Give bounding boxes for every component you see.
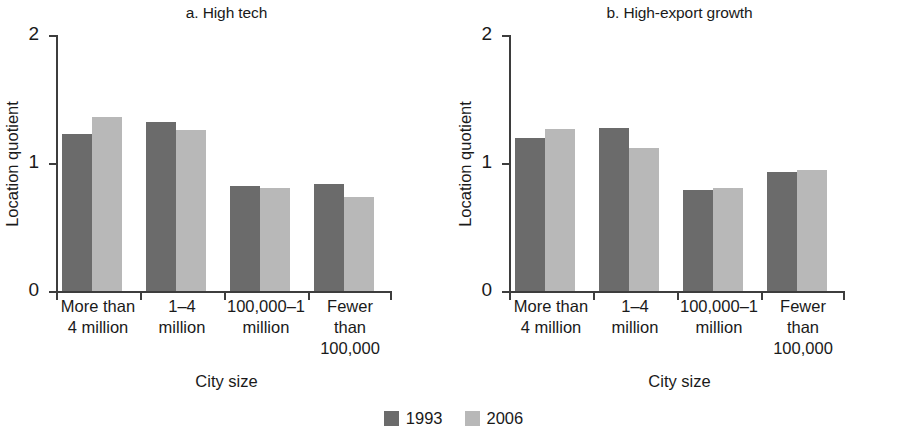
panel-a-x-label-1: 1–4 million (140, 296, 224, 338)
panel-a-x-label-0-line-1: 4 million (56, 317, 140, 338)
panel-b-group-2 (677, 35, 761, 291)
panel-a-bar-2006-1 (176, 130, 206, 291)
panel-a-title: a. High tech (0, 4, 453, 22)
panel-b-x-label-0: More than 4 million (509, 296, 593, 338)
panel-a-group-2 (224, 35, 308, 291)
legend-item-1993: 1993 (384, 410, 443, 427)
panel-a-x-label-3-line-2: 100,000 (308, 338, 392, 359)
panel-b-x-label-1-line-1: million (593, 317, 677, 338)
legend-item-2006: 2006 (465, 410, 524, 427)
panel-a-plot-area: 2 1 0 Location quotient (56, 35, 392, 293)
panel-b-x-label-2-line-0: 100,000–1 (677, 296, 761, 317)
panel-b-x-label-1: 1–4 million (593, 296, 677, 338)
legend-label-1993: 1993 (406, 410, 443, 427)
panel-a-x-label-1-line-1: million (140, 317, 224, 338)
panel-a-x-label-3: Fewer than 100,000 (308, 296, 392, 359)
panel-a-bar-2006-3 (344, 197, 374, 292)
panel-b-bar-1993-0 (515, 138, 545, 292)
panel-b-x-label-3: Fewer than 100,000 (761, 296, 845, 359)
panel-a-x-label-2-line-1: million (224, 317, 308, 338)
panel-a-x-label-2-line-0: 100,000–1 (224, 296, 308, 317)
legend-label-2006: 2006 (487, 410, 524, 427)
panel-a-x-label-2: 100,000–1 million (224, 296, 308, 338)
panel-b-y-tick-label-2: 2 (481, 23, 492, 45)
panel-b-title: b. High-export growth (453, 4, 906, 22)
panel-b-x-label-1-line-0: 1–4 (593, 296, 677, 317)
panel-b-x-label-3-line-1: than (761, 317, 845, 338)
panel-a-bar-1993-2 (230, 186, 260, 291)
panel-b-group-3 (761, 35, 845, 291)
panel-a-y-tick-label-1: 1 (28, 151, 39, 173)
panel-b-x-label-2: 100,000–1 million (677, 296, 761, 338)
panel-b-x-label-3-line-0: Fewer (761, 296, 845, 317)
chart-panel-a: a. High tech 2 1 0 Location quotient (0, 0, 453, 400)
panel-a-bar-1993-0 (62, 134, 92, 291)
panel-a-x-label-0: More than 4 million (56, 296, 140, 338)
panel-b-x-label-0-line-1: 4 million (509, 317, 593, 338)
panel-a-x-axis-title: City size (0, 372, 453, 391)
panel-a-x-label-0-line-0: More than (56, 296, 140, 317)
panel-b-bar-2006-2 (713, 188, 743, 292)
panel-b-y-tick-label-1: 1 (481, 151, 492, 173)
panel-a-group-3 (308, 35, 392, 291)
panel-b-bar-1993-3 (767, 172, 797, 291)
panel-b-bar-2006-1 (629, 148, 659, 291)
panel-a-group-1 (140, 35, 224, 291)
panel-b-bar-1993-2 (683, 190, 713, 291)
panel-a-bar-2006-0 (92, 117, 122, 291)
panel-b-y-tick-label-0: 0 (481, 279, 492, 301)
legend-swatch-1993-icon (384, 411, 399, 426)
panel-a-group-0 (56, 35, 140, 291)
chart-panel-b: b. High-export growth 2 1 0 Location quo… (453, 0, 906, 400)
panel-b-plot-area: 2 1 0 Location quotient (509, 35, 845, 293)
panel-a-bar-1993-3 (314, 184, 344, 292)
panel-b-x-axis-title: City size (453, 372, 906, 391)
panel-a-bar-2006-2 (260, 188, 290, 292)
figure-two-panel-bar-charts: a. High tech 2 1 0 Location quotient (0, 0, 907, 443)
panel-a-bar-1993-1 (146, 122, 176, 291)
panel-b-group-0 (509, 35, 593, 291)
legend-swatch-2006-icon (465, 411, 480, 426)
chart-legend: 1993 2006 (0, 410, 907, 427)
panel-b-bar-2006-0 (545, 129, 575, 292)
panel-b-x-label-0-line-0: More than (509, 296, 593, 317)
panel-a-y-tick-label-0: 0 (28, 279, 39, 301)
panel-b-x-label-3-line-2: 100,000 (761, 338, 845, 359)
panel-b-group-1 (593, 35, 677, 291)
panel-b-bar-1993-1 (599, 128, 629, 292)
panel-a-bar-groups (56, 35, 392, 291)
panel-a-x-label-3-line-1: than (308, 317, 392, 338)
panel-a-y-axis-title: Location quotient (3, 101, 22, 227)
panel-a-x-label-1-line-0: 1–4 (140, 296, 224, 317)
panel-b-y-axis-title: Location quotient (456, 101, 475, 227)
panel-b-bar-groups (509, 35, 845, 291)
panel-a-y-tick-label-2: 2 (28, 23, 39, 45)
panel-a-x-label-3-line-0: Fewer (308, 296, 392, 317)
panel-b-bar-2006-3 (797, 170, 827, 292)
panel-b-x-label-2-line-1: million (677, 317, 761, 338)
